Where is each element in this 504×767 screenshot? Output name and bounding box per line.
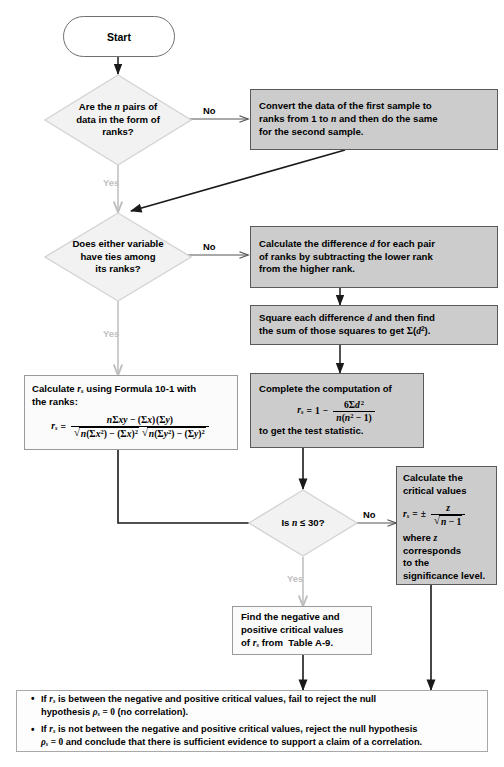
critical-values-line6: significance level. [403, 570, 490, 583]
decision-ties-line3: its ranks? [72, 263, 163, 276]
decision-n30-text: Is n ≤ 30? [248, 489, 358, 557]
calc-difference-line1: Calculate the difference d for each pair [259, 238, 489, 251]
formula-10-1-line2: the ranks: [32, 396, 230, 409]
complete-computation-eq: = [307, 405, 312, 418]
decision-ties-line2: have ties among [72, 251, 163, 264]
node-decision-ranks[interactable]: Are the n pairs of data in the form of r… [44, 74, 192, 166]
decision-ties-text: Does either variable have ties among its… [44, 212, 192, 302]
complete-computation-equation: rs = 1 − 6Σd 2 n(n2 − 1) [259, 399, 415, 424]
table-a9-line2: positive critical values [241, 624, 363, 637]
formula-10-1-numerator: nΣxy − (Σx) (Σy) [71, 414, 209, 427]
formula-10-1-denominator: √n(Σx2) − (Σx)2√n(Σy2) − (Σy)2 [71, 427, 209, 440]
edge-label-no-2: No [203, 241, 216, 252]
node-formula-10-1[interactable]: Calculate rs using Formula 10-1 with the… [24, 375, 238, 450]
edge-label-no-3: No [363, 509, 376, 520]
table-a9-line3: of rs from Table A-9. [241, 637, 363, 650]
conclusion-bullet-list: If rs is between the negative and positi… [27, 693, 477, 749]
decision-ties-line1: Does either variable [72, 238, 163, 251]
critical-values-pm: ± [421, 508, 426, 521]
calc-difference-line2: of ranks by subtracting the lower rank [259, 251, 489, 264]
critical-values-eq: = [412, 508, 417, 521]
complete-computation-fraction: 6Σd 2 n(n2 − 1) [333, 399, 374, 424]
node-square-difference[interactable]: Square each difference d and then find t… [250, 305, 498, 345]
critical-values-line1: Calculate the [403, 472, 490, 485]
complete-computation-minus: − [323, 405, 328, 418]
edge-label-yes-2: Yes [103, 328, 119, 339]
edge-label-yes-3: Yes [287, 573, 303, 584]
calc-difference-line3: from the higher rank. [259, 263, 489, 276]
complete-computation-one: 1 [315, 405, 320, 418]
critical-values-numerator: z [431, 502, 465, 515]
formula-10-1-eq: = [60, 421, 65, 434]
node-decision-n30[interactable]: Is n ≤ 30? [248, 489, 358, 557]
node-calculate-difference[interactable]: Calculate the difference d for each pair… [250, 226, 498, 288]
formula-10-1-line1: Calculate rs using Formula 10-1 with [32, 383, 230, 396]
critical-values-line3: where z [403, 532, 490, 545]
complete-computation-denominator: n(n2 − 1) [333, 412, 374, 424]
critical-values-lhs: rs [403, 508, 409, 521]
convert-ranks-line1: Convert the data of the first sample to [259, 100, 489, 113]
complete-computation-lhs: rs [297, 404, 303, 417]
start-label: Start [107, 31, 131, 43]
decision-ranks-text: Are the n pairs of data in the form of r… [44, 74, 192, 166]
critical-values-line2: critical values [403, 485, 490, 498]
square-difference-line2: the sum of those squares to get Σ(d2). [259, 325, 489, 338]
formula-10-1-lhs: rs [51, 420, 57, 433]
edge-label-no-1: No [203, 105, 216, 116]
list-item: If rs is between the negative and positi… [41, 693, 477, 719]
flowchart-canvas: Start Are the n pairs of data in the for… [0, 0, 504, 767]
list-item: If rs is not between the negative and po… [41, 723, 477, 749]
convert-ranks-line2: ranks from 1 to n and then do the same [259, 113, 489, 126]
critical-values-line4: corresponds [403, 545, 490, 558]
decision-n30-label: Is n ≤ 30? [281, 517, 324, 530]
edge-label-yes-1: Yes [103, 177, 119, 188]
node-start[interactable]: Start [63, 16, 175, 57]
node-decision-ties[interactable]: Does either variable have ties among its… [44, 212, 192, 302]
table-a9-line1: Find the negative and [241, 611, 363, 624]
formula-10-1-equation: rs = nΣxy − (Σx) (Σy) √n(Σx2) − (Σx)2√n(… [32, 414, 230, 440]
critical-values-fraction: z √n − 1 [431, 502, 465, 528]
decision-ranks-line1: Are the n pairs of [76, 101, 160, 114]
convert-ranks-line3: for the second sample. [259, 126, 489, 139]
decision-ranks-line3: ranks? [76, 126, 160, 139]
critical-values-equation: rs = ± z √n − 1 [403, 502, 490, 528]
node-complete-computation[interactable]: Complete the computation of rs = 1 − 6Σd… [250, 373, 424, 448]
formula-10-1-fraction: nΣxy − (Σx) (Σy) √n(Σx2) − (Σx)2√n(Σy2) … [71, 414, 209, 440]
complete-computation-line2: to get the test statistic. [259, 425, 415, 438]
complete-computation-line1: Complete the computation of [259, 383, 415, 396]
square-difference-line1: Square each difference d and then find [259, 312, 489, 325]
critical-values-denominator: √n − 1 [431, 515, 465, 528]
decision-ranks-line2: data in the form of [76, 114, 160, 127]
critical-values-line5: to the [403, 557, 490, 570]
node-critical-values-z[interactable]: Calculate the critical values rs = ± z √… [396, 466, 497, 585]
complete-computation-numerator: 6Σd 2 [333, 399, 374, 412]
node-convert-ranks[interactable]: Convert the data of the first sample to … [250, 89, 498, 150]
node-conclusion[interactable]: If rs is between the negative and positi… [16, 690, 488, 752]
node-table-a9[interactable]: Find the negative and positive critical … [232, 606, 372, 655]
